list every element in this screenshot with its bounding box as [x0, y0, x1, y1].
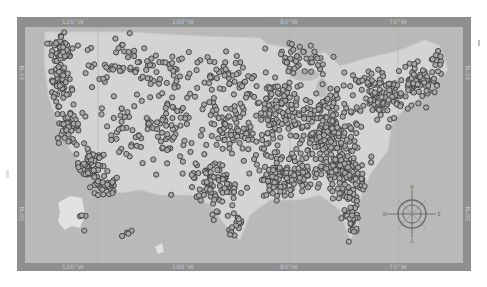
- location-marker[interactable]: [369, 71, 374, 76]
- location-marker[interactable]: [424, 105, 429, 110]
- location-marker[interactable]: [318, 156, 323, 161]
- location-marker[interactable]: [430, 57, 435, 62]
- location-marker[interactable]: [256, 100, 261, 105]
- location-marker[interactable]: [178, 154, 183, 159]
- location-marker[interactable]: [284, 60, 289, 65]
- location-marker[interactable]: [333, 92, 338, 97]
- location-marker[interactable]: [347, 195, 352, 200]
- location-marker[interactable]: [164, 80, 169, 85]
- location-marker[interactable]: [179, 56, 184, 61]
- location-marker[interactable]: [331, 113, 336, 118]
- location-marker[interactable]: [430, 70, 435, 75]
- location-marker[interactable]: [298, 151, 303, 156]
- location-marker[interactable]: [159, 130, 164, 135]
- location-marker[interactable]: [267, 86, 272, 91]
- location-marker[interactable]: [252, 157, 257, 162]
- location-marker[interactable]: [360, 78, 365, 83]
- location-marker[interactable]: [122, 114, 127, 119]
- location-marker[interactable]: [405, 106, 410, 111]
- location-marker[interactable]: [345, 154, 350, 159]
- location-marker[interactable]: [95, 179, 100, 184]
- location-marker[interactable]: [208, 75, 213, 80]
- location-marker[interactable]: [386, 81, 391, 86]
- location-marker[interactable]: [320, 82, 325, 87]
- location-marker[interactable]: [354, 198, 359, 203]
- location-marker[interactable]: [319, 172, 324, 177]
- location-marker[interactable]: [289, 178, 294, 183]
- location-marker[interactable]: [96, 162, 101, 167]
- location-marker[interactable]: [289, 42, 294, 47]
- location-marker[interactable]: [247, 171, 252, 176]
- location-marker[interactable]: [396, 68, 401, 73]
- location-marker[interactable]: [347, 173, 352, 178]
- location-marker[interactable]: [70, 87, 75, 92]
- location-marker[interactable]: [330, 126, 335, 131]
- location-marker[interactable]: [184, 121, 189, 126]
- location-marker[interactable]: [197, 187, 202, 192]
- location-marker[interactable]: [294, 54, 299, 59]
- location-marker[interactable]: [177, 74, 182, 79]
- location-marker[interactable]: [337, 176, 342, 181]
- location-marker[interactable]: [347, 190, 352, 195]
- location-marker[interactable]: [362, 184, 367, 189]
- location-marker[interactable]: [145, 59, 150, 64]
- location-marker[interactable]: [216, 136, 221, 141]
- location-marker[interactable]: [142, 46, 147, 51]
- location-marker[interactable]: [301, 170, 306, 175]
- location-marker[interactable]: [109, 137, 114, 142]
- location-marker[interactable]: [322, 138, 327, 143]
- location-marker[interactable]: [412, 61, 417, 66]
- location-marker[interactable]: [220, 146, 225, 151]
- location-marker[interactable]: [342, 124, 347, 129]
- location-marker[interactable]: [49, 69, 54, 74]
- location-marker[interactable]: [288, 192, 293, 197]
- location-marker[interactable]: [434, 83, 439, 88]
- location-marker[interactable]: [110, 179, 115, 184]
- location-marker[interactable]: [378, 112, 383, 117]
- location-marker[interactable]: [81, 161, 86, 166]
- location-marker[interactable]: [294, 103, 299, 108]
- location-marker[interactable]: [310, 131, 315, 136]
- location-marker[interactable]: [111, 94, 116, 99]
- location-marker[interactable]: [229, 151, 234, 156]
- location-marker[interactable]: [187, 91, 192, 96]
- location-marker[interactable]: [189, 140, 194, 145]
- location-marker[interactable]: [74, 152, 79, 157]
- location-marker[interactable]: [85, 146, 90, 151]
- location-marker[interactable]: [290, 114, 295, 119]
- location-marker[interactable]: [136, 133, 141, 138]
- location-marker[interactable]: [328, 152, 333, 157]
- location-marker[interactable]: [92, 175, 97, 180]
- location-marker[interactable]: [95, 193, 100, 198]
- location-marker[interactable]: [57, 83, 62, 88]
- location-marker[interactable]: [353, 176, 358, 181]
- location-marker[interactable]: [105, 182, 110, 187]
- location-marker[interactable]: [270, 174, 275, 179]
- location-marker[interactable]: [61, 50, 66, 55]
- location-marker[interactable]: [114, 136, 119, 141]
- location-marker[interactable]: [282, 93, 287, 98]
- location-marker[interactable]: [309, 69, 314, 74]
- location-marker[interactable]: [220, 163, 225, 168]
- location-marker[interactable]: [304, 155, 309, 160]
- location-marker[interactable]: [269, 154, 274, 159]
- location-marker[interactable]: [227, 81, 232, 86]
- location-marker[interactable]: [194, 68, 199, 73]
- location-marker[interactable]: [302, 69, 307, 74]
- location-marker[interactable]: [165, 147, 170, 152]
- location-marker[interactable]: [356, 165, 361, 170]
- location-marker[interactable]: [148, 95, 153, 100]
- location-marker[interactable]: [186, 50, 191, 55]
- location-marker[interactable]: [368, 98, 373, 103]
- location-marker[interactable]: [110, 67, 115, 72]
- location-marker[interactable]: [223, 67, 228, 72]
- location-marker[interactable]: [259, 132, 264, 137]
- location-marker[interactable]: [316, 106, 321, 111]
- location-marker[interactable]: [294, 146, 299, 151]
- location-marker[interactable]: [74, 142, 79, 147]
- location-marker[interactable]: [132, 104, 137, 109]
- location-marker[interactable]: [157, 76, 162, 81]
- location-marker[interactable]: [75, 121, 80, 126]
- location-marker[interactable]: [165, 161, 170, 166]
- location-marker[interactable]: [339, 216, 344, 221]
